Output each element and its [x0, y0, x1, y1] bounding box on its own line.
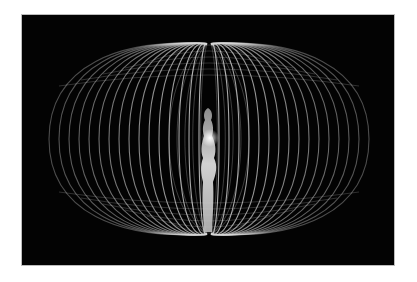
torus-ring-line [211, 43, 299, 235]
torus-ring-line [211, 43, 269, 235]
torus-field-illustration [0, 0, 417, 282]
torus-ring-line [69, 43, 207, 235]
figure-silhouette [201, 108, 216, 232]
torus-latitude-line [169, 45, 249, 56]
torus-latitude-line [147, 51, 271, 62]
heart-glow [201, 129, 219, 147]
torus-ring-line [211, 43, 349, 235]
torus-ring-line [149, 43, 207, 235]
torus-ring-line [159, 43, 207, 235]
torus-ring-line [119, 43, 207, 235]
